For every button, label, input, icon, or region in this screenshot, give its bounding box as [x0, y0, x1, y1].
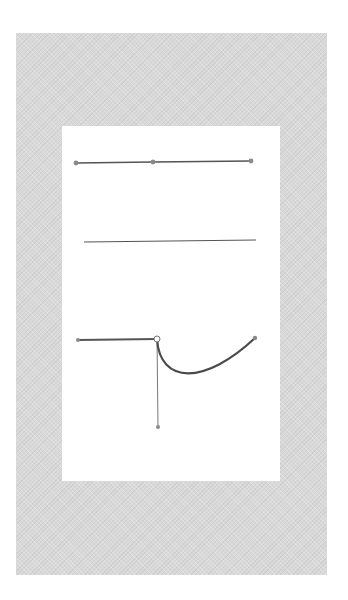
straight-segment	[78, 339, 157, 340]
vector-paths-diagram	[0, 0, 348, 600]
plain-line	[84, 240, 256, 242]
anchor-point[interactable]	[74, 161, 79, 166]
straight-path-line	[76, 161, 251, 163]
bezier-handle-point[interactable]	[156, 425, 160, 429]
end-anchor-point[interactable]	[253, 336, 257, 340]
corner-curve-path	[76, 336, 257, 429]
anchor-point[interactable]	[151, 160, 156, 165]
bezier-curve-segment	[157, 338, 255, 373]
straight-path-with-anchors	[74, 159, 254, 166]
plain-line-path	[84, 240, 256, 242]
start-anchor-point[interactable]	[76, 338, 80, 342]
corner-anchor-point[interactable]	[154, 336, 160, 342]
bezier-handle-line[interactable]	[157, 339, 158, 427]
anchor-point[interactable]	[249, 159, 254, 164]
